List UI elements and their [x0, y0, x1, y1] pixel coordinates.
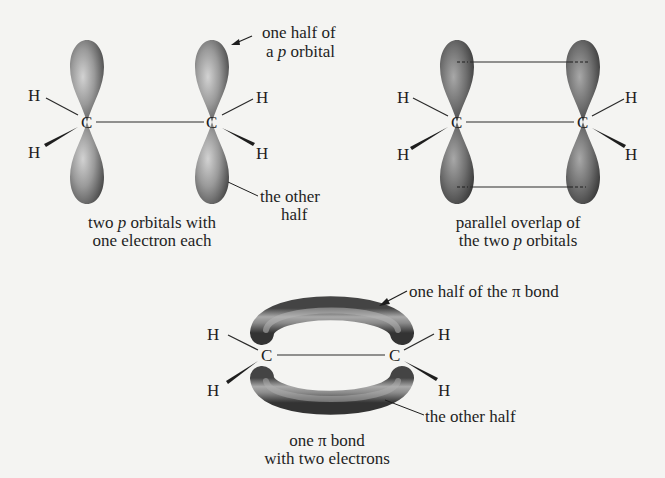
carbon-label-left: C	[261, 346, 272, 365]
hydrogen-label: H	[28, 86, 40, 105]
carbon-label-right: C	[206, 113, 217, 132]
hydrogen-label: H	[438, 325, 450, 344]
hydrogen-label: H	[397, 88, 409, 107]
callout-other-half-pi-bond: the other half	[425, 407, 516, 426]
hydrogen-label: H	[397, 145, 409, 164]
hydrogen-label: H	[207, 381, 219, 400]
caption-panel3-line2: with two electrons	[264, 449, 390, 468]
hydrogen-label: H	[625, 145, 637, 164]
wedge-bond-h-lower-right	[222, 128, 255, 146]
bond-h-upper-left	[413, 98, 448, 116]
wedge-bond-h-lower-left	[44, 127, 78, 147]
bond-h-upper-right	[592, 99, 624, 116]
panel-two-p-orbitals: C C H H H H one half of a p orbital the …	[28, 23, 336, 250]
pointer-line	[385, 400, 424, 415]
caption-panel2-line1: parallel overlap of	[456, 213, 581, 232]
callout-the-other-half-line2: half	[281, 205, 308, 224]
carbon-label-left: C	[81, 113, 92, 132]
callout-one-half-p-orbital: one half of	[262, 23, 336, 42]
pi-bond-formation-diagram: C C H H H H one half of a p orbital the …	[0, 0, 665, 478]
hydrogen-label: H	[256, 144, 268, 163]
callout-one-half-p-orbital-line2: a p orbital	[266, 42, 335, 61]
callout-one-half-pi-bond: one half of the π bond	[409, 282, 559, 301]
hydrogen-label: H	[256, 88, 268, 107]
arrow-line	[386, 291, 407, 302]
arrowhead-icon	[379, 298, 390, 306]
caption-panel2-line2: the two p orbitals	[459, 231, 578, 250]
bond-h-upper-right	[222, 99, 253, 115]
wedge-bond-h-lower-right	[592, 128, 626, 148]
bond-h-upper-left	[46, 98, 78, 115]
caption-panel1-line2: one electron each	[93, 231, 212, 250]
carbon-label-left: C	[451, 113, 462, 132]
wedge-bond-h-lower-left	[410, 127, 448, 150]
hydrogen-label: H	[438, 381, 450, 400]
panel-pi-bond: C C H H H H one half of the π bond the o…	[207, 282, 559, 468]
hydrogen-label: H	[28, 143, 40, 162]
caption-panel3-line1: one π bond	[289, 431, 365, 450]
carbon-label-right: C	[389, 346, 400, 365]
hydrogen-label: H	[625, 88, 637, 107]
carbon-label-right: C	[577, 113, 588, 132]
hydrogen-label: H	[207, 325, 219, 344]
arrowhead-icon	[231, 39, 240, 45]
panel-parallel-overlap: C C H H H H parallel overlap of the two …	[397, 40, 637, 250]
callout-the-other-half: the other	[260, 187, 320, 206]
caption-panel1-line1: two p orbitals with	[88, 213, 216, 232]
pointer-line	[228, 182, 258, 196]
